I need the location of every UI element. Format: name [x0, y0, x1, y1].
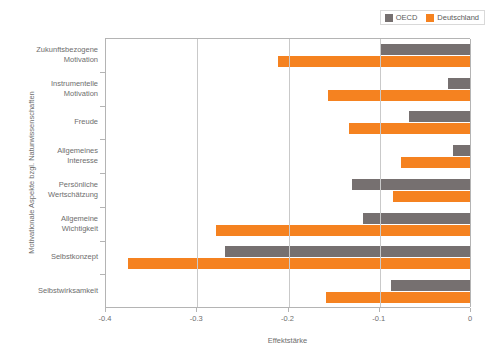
plot-area	[105, 38, 470, 308]
y-tick-label-5: AllgemeineWichtigkeit	[61, 214, 98, 234]
y-tick-label-4: PersönlicheWertschätzung	[48, 180, 98, 200]
bar-oecd-2	[409, 111, 471, 122]
y-tick-label-line: Motivation	[36, 55, 98, 65]
x-axis-ticks: -0.4-0.3-0.2-0.10	[0, 308, 492, 328]
x-tick-mark-3	[379, 308, 380, 312]
x-tick-label-2: -0.2	[281, 314, 294, 323]
x-tick-label-3: -0.1	[372, 314, 385, 323]
gridline--0.3	[197, 39, 198, 307]
zero-line	[470, 39, 471, 307]
bar-deutschland-2	[349, 123, 471, 134]
x-tick-label-1: -0.3	[190, 314, 203, 323]
y-tick-label-line: Selbstwirksamkeit	[38, 286, 98, 296]
bar-oecd-6	[225, 246, 471, 257]
bar-deutschland-7	[326, 292, 471, 303]
x-tick-mark-4	[470, 308, 471, 312]
legend-label-oecd: OECD	[396, 14, 418, 22]
y-tick-label-1: InstrumentelleMotivation	[51, 79, 98, 99]
legend-item-oecd: OECD	[385, 14, 418, 22]
y-tick-label-line: Wichtigkeit	[61, 224, 98, 234]
y-tick-label-0: ZukunftsbezogeneMotivation	[36, 45, 98, 65]
y-tick-label-line: Instrumentelle	[51, 79, 98, 89]
effect-size-bar-chart: OECD Deutschland Motivationale Aspekte b…	[0, 0, 492, 358]
x-tick-mark-1	[196, 308, 197, 312]
legend-item-deutschland: Deutschland	[426, 14, 479, 22]
bar-oecd-0	[380, 44, 471, 55]
y-tick-label-line: Allgemeines	[57, 146, 98, 156]
legend-swatch-deutschland	[426, 14, 434, 22]
x-tick-mark-0	[105, 308, 106, 312]
bar-deutschland-3	[401, 157, 471, 168]
y-axis-category-labels: ZukunftsbezogeneMotivationInstrumentelle…	[0, 38, 103, 308]
x-axis-title: Effektstärke	[105, 336, 470, 345]
bar-oecd-3	[453, 145, 471, 156]
y-tick-label-line: Allgemeine	[61, 214, 98, 224]
y-tick-label-2: Freude	[74, 117, 98, 127]
gridline--0.2	[289, 39, 290, 307]
chart-legend: OECD Deutschland	[380, 10, 485, 25]
bar-deutschland-1	[328, 90, 471, 101]
bar-deutschland-4	[393, 191, 471, 202]
y-tick-label-line: Persönliche	[48, 180, 98, 190]
y-tick-label-7: Selbstwirksamkeit	[38, 286, 98, 296]
bar-oecd-4	[352, 179, 471, 190]
y-tick-label-line: Wertschätzung	[48, 190, 98, 200]
bar-oecd-7	[391, 280, 471, 291]
bar-deutschland-0	[278, 56, 471, 67]
y-tick-label-3: AllgemeinesInteresse	[57, 146, 98, 166]
legend-label-deutschland: Deutschland	[437, 14, 479, 22]
gridline--0.1	[380, 39, 381, 307]
x-tick-label-4: 0	[468, 314, 472, 323]
y-tick-label-line: Zukunftsbezogene	[36, 45, 98, 55]
y-tick-label-line: Freude	[74, 117, 98, 127]
y-tick-label-6: Selbstkonzept	[51, 252, 98, 262]
bar-deutschland-6	[128, 258, 471, 269]
y-tick-label-line: Interesse	[57, 156, 98, 166]
y-tick-label-line: Selbstkonzept	[51, 252, 98, 262]
bar-oecd-1	[448, 78, 471, 89]
legend-swatch-oecd	[385, 14, 393, 22]
x-tick-mark-2	[288, 308, 289, 312]
bar-deutschland-5	[216, 225, 471, 236]
x-tick-label-0: -0.4	[99, 314, 112, 323]
y-tick-label-line: Motivation	[51, 89, 98, 99]
